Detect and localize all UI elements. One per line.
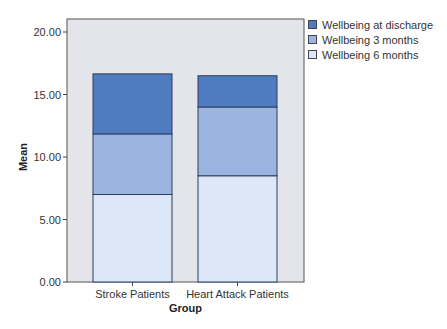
y-tick-label: 0.00 [40, 276, 61, 288]
x-tick-label: Heart Attack Patients [186, 288, 289, 300]
legend-label: Wellbeing 3 months [322, 34, 418, 46]
legend-item-6-months: Wellbeing 6 months [308, 47, 433, 62]
x-axis-label: Group [169, 302, 202, 314]
bar-segment [93, 195, 172, 283]
y-axis-label: Mean [17, 143, 29, 171]
bar-segment [198, 107, 277, 176]
legend-item-discharge: Wellbeing at discharge [308, 17, 433, 32]
legend-label: Wellbeing at discharge [322, 19, 433, 31]
legend-swatch-icon [308, 50, 317, 59]
bar-segment [198, 76, 277, 107]
legend-swatch-icon [308, 20, 317, 29]
y-tick-label: 15.00 [33, 89, 61, 101]
bar-segment [198, 176, 277, 282]
bar-segment [93, 74, 172, 134]
legend-swatch-icon [308, 35, 317, 44]
x-tick-label: Stroke Patients [95, 288, 170, 300]
y-tick-label: 20.00 [33, 26, 61, 38]
y-tick-label: 5.00 [40, 214, 61, 226]
legend-label: Wellbeing 6 months [322, 49, 418, 61]
y-tick-label: 10.00 [33, 151, 61, 163]
legend: Wellbeing at discharge Wellbeing 3 month… [308, 17, 433, 62]
legend-item-3-months: Wellbeing 3 months [308, 32, 433, 47]
bar-segment [93, 134, 172, 195]
